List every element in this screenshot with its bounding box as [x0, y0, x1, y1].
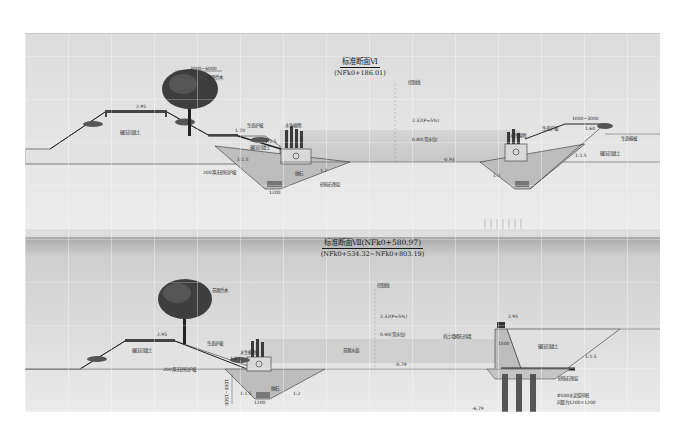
label-elev-bottom: -0.93	[443, 158, 455, 163]
label-backfill-left-2: 碾压回填土	[132, 349, 152, 354]
label-aquatic-plant-2: 水生植物	[240, 351, 256, 356]
cross-section-vi: 标准断面Ⅵ (NFk0+186.01) 3000~6000 景观乔木 2.95 …	[25, 34, 660, 229]
label-right-slope-ratio: 1:1.5	[575, 154, 587, 159]
label-riprap: 200厚无砂砼护坡	[203, 171, 236, 176]
label-pile-spacing: 间距为1200×1200	[557, 401, 596, 406]
label-slope-ratio-3: 1:2	[320, 169, 327, 174]
label-crest-elev-right: 1.60	[585, 127, 595, 132]
label-elev-bottom-2: -0.79	[395, 363, 407, 368]
label-right-plant: 水生植物	[510, 134, 526, 139]
label-pile-bottom: -6.79	[472, 407, 484, 412]
label-control-line-2: 控制线	[377, 284, 389, 289]
section-vi-title-main: 标准断面Ⅵ	[340, 55, 380, 68]
label-elev-design: 2.32(P=5%)	[412, 119, 439, 124]
label-control-line: 控制线	[408, 81, 420, 86]
label-right-slope-ratio-2: 1:1.5	[585, 355, 597, 360]
label-slope-plant-2: 生态护坡	[207, 342, 223, 347]
label-backfill-right-2: 碾压回填土	[538, 345, 558, 350]
label-stone: 抛石	[295, 172, 303, 177]
label-slope-ratio-2a: 1:2.5	[230, 357, 242, 362]
label-backfill-right: 碾压回填土	[600, 152, 620, 157]
section-vi-subtitle: (NFk0+186.01)	[315, 69, 405, 77]
label-crest-elev-left: 2.95	[136, 105, 146, 110]
label-gravel: 砂砾石垫层	[320, 183, 340, 188]
section-vii-subtitle: (NFk0+534.32~NFk0+803.19)	[310, 250, 435, 258]
label-bottom-width: 1200	[269, 191, 280, 196]
label-backfill-left: 碾压回填土	[120, 131, 140, 136]
cross-section-vii: 标准断面Ⅶ(NFk0+580.97) (NFk0+534.32~NFk0+803…	[25, 229, 660, 412]
label-piles: Φ500水泥搅拌桩	[557, 394, 589, 399]
label-elev-design-2: 2.32(P=5%)	[380, 315, 407, 320]
label-tree: 景观乔木	[207, 76, 223, 81]
label-wall-crest: 2.95	[508, 315, 518, 320]
label-width-left: 3000~6000	[190, 67, 217, 72]
section-vii-title-main: 标准断面Ⅶ(NFk0+580.97)	[322, 236, 423, 249]
label-right-slope-ratio-2: 1:2	[493, 174, 500, 179]
label-slope-ratio-2c: 1:2	[293, 392, 300, 397]
label-aquatic-plant: 水生植物	[285, 124, 301, 129]
label-stone-2: 抛石	[271, 387, 279, 392]
label-bank-height-2: 1000~1500	[223, 379, 228, 406]
label-wall-width: 1500	[498, 342, 509, 347]
label-tree-2: 景观乔木	[212, 289, 228, 294]
label-elev-normal-2: 0.40(常水位)	[380, 333, 406, 338]
section-vii-title: 标准断面Ⅶ(NFk0+580.97) (NFk0+534.32~NFk0+803…	[310, 230, 435, 258]
label-crest-elev-2: 2.95	[157, 333, 167, 338]
drawing-sheet: 标准断面Ⅵ (NFk0+186.01) 3000~6000 景观乔木 2.95 …	[25, 33, 660, 412]
label-slope-ratio-2: 1:1.5	[237, 158, 249, 163]
label-step-elev: 1.70	[235, 129, 245, 134]
label-width-right: 1000~3000	[572, 117, 599, 122]
label-slope-ratio-1: 1:2.5	[265, 140, 277, 145]
label-right-shrub: 生态植被	[621, 137, 637, 142]
label-slope-ratio-2b: 1:1.5	[240, 392, 252, 397]
label-elev-normal: 0.80(常水位)	[412, 138, 438, 143]
label-riprap-2: 200厚无砂砼护坡	[163, 368, 196, 373]
label-backfill-low: 碾压回填土	[250, 146, 270, 151]
label-water-area-2: 景观水面	[343, 349, 359, 354]
label-slope-plant: 生态护坡	[247, 124, 263, 129]
label-gravel-2: 砂砾石垫层	[558, 377, 578, 382]
label-right-slope-plant: 生态护坡	[542, 127, 558, 132]
label-retaining-wall: 挡土墙砌石挡墙	[443, 335, 471, 340]
section-vi-title: 标准断面Ⅵ (NFk0+186.01)	[315, 49, 405, 77]
label-bottom-width-2: 1200	[254, 401, 265, 406]
